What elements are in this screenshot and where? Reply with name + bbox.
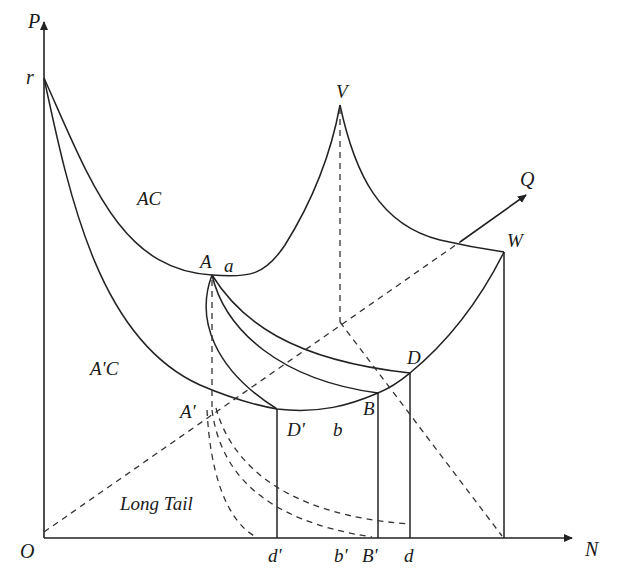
tick-b-upper-prime: B' xyxy=(362,545,379,566)
ac-label: AC xyxy=(135,188,162,209)
r-label: r xyxy=(26,66,34,88)
long-tail-curve-3 xyxy=(216,408,410,524)
v-label: V xyxy=(336,81,350,102)
long-tail-curve-1 xyxy=(207,410,256,537)
curve-a-to-d-prime xyxy=(206,275,277,409)
p-axis-label: P xyxy=(27,10,40,32)
d-prime-label: D' xyxy=(286,419,306,440)
n-axis-label: N xyxy=(584,538,600,560)
q-label: Q xyxy=(520,168,535,190)
origin-label: O xyxy=(20,540,34,562)
cost-curve-diagram: P r O N Q V AC A a W A'C D B A' D' b Lon… xyxy=(0,0,619,578)
a-lower-label: a xyxy=(224,255,234,276)
d-label: D xyxy=(406,347,421,368)
tick-b-prime: b' xyxy=(334,545,349,566)
tick-d-prime: d' xyxy=(268,545,283,566)
curve-a-to-b xyxy=(212,275,378,393)
long-tail-label: Long Tail xyxy=(119,493,193,514)
curve-a-to-d xyxy=(212,275,410,373)
a-prime-c-label: A'C xyxy=(88,358,119,379)
b-lower-label: b xyxy=(333,419,343,440)
a-label: A xyxy=(198,251,212,272)
b-upper-label: B xyxy=(363,398,375,419)
dashed-v-diagonal xyxy=(340,322,502,536)
a-prime-label: A' xyxy=(178,401,197,422)
tick-d: d xyxy=(404,545,414,566)
w-label: W xyxy=(507,230,525,251)
ac-curve-right xyxy=(340,105,504,252)
